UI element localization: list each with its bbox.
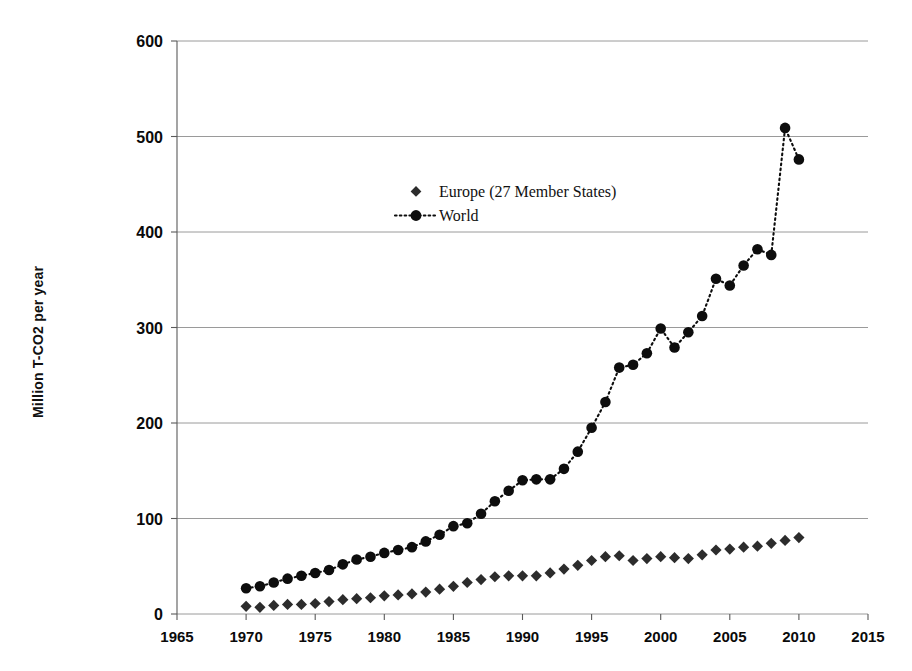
circle-marker-icon <box>411 210 422 221</box>
world-data-point <box>642 348 653 359</box>
world-data-point <box>669 342 680 353</box>
world-data-point <box>766 250 777 261</box>
world-data-point <box>420 536 431 547</box>
world-data-point <box>794 154 805 165</box>
y-axis-title-text: Million T-CO2 per year <box>30 265 46 418</box>
world-data-point <box>490 496 501 507</box>
world-data-point <box>351 554 362 565</box>
x-tick-label-2015: 2015 <box>851 628 884 645</box>
world-data-point <box>503 486 514 497</box>
world-data-point <box>310 568 321 579</box>
world-data-point <box>255 581 266 592</box>
world-data-point <box>711 274 722 285</box>
y-tick-label-300: 300 <box>136 320 163 337</box>
y-tick-label-100: 100 <box>136 511 163 528</box>
world-data-point <box>324 565 335 576</box>
world-data-point <box>365 551 376 562</box>
y-axis-title: Million T-CO2 per year <box>30 265 46 418</box>
x-tick-label-1965: 1965 <box>160 628 193 645</box>
y-tick-label-200: 200 <box>136 415 163 432</box>
y-tick-label-600: 600 <box>136 33 163 50</box>
world-data-point <box>282 573 293 584</box>
world-data-point <box>296 571 307 582</box>
world-data-point <box>683 327 694 338</box>
world-data-point <box>628 359 639 370</box>
world-data-point <box>476 508 487 519</box>
legend-label-europe: Europe (27 Member States) <box>439 183 616 201</box>
world-data-point <box>614 362 625 373</box>
world-data-point <box>655 323 666 334</box>
y-tick-label-500: 500 <box>136 129 163 146</box>
legend-label-world: World <box>439 207 479 224</box>
x-tick-label-2010: 2010 <box>782 628 815 645</box>
world-data-point <box>725 280 736 291</box>
world-data-point <box>600 397 611 408</box>
x-tick-label-1995: 1995 <box>575 628 608 645</box>
world-data-point <box>572 446 583 457</box>
world-data-point <box>586 422 597 433</box>
x-tick-label-2005: 2005 <box>713 628 746 645</box>
world-data-point <box>531 474 542 485</box>
x-tick-label-1980: 1980 <box>368 628 401 645</box>
y-tick-label-0: 0 <box>154 606 163 623</box>
world-data-point <box>268 577 279 588</box>
x-tick-label-1990: 1990 <box>506 628 539 645</box>
world-data-point <box>379 548 390 559</box>
world-data-point <box>517 475 528 486</box>
world-data-point <box>241 583 252 594</box>
y-tick-label-400: 400 <box>136 224 163 241</box>
x-tick-label-2000: 2000 <box>644 628 677 645</box>
world-data-point <box>780 123 791 134</box>
x-tick-label-1985: 1985 <box>437 628 470 645</box>
chart-container: 0100200300400500600 19651970197519801985… <box>0 0 912 671</box>
co2-emissions-line-chart: 0100200300400500600 19651970197519801985… <box>0 0 912 671</box>
world-data-point <box>338 559 349 570</box>
world-data-point <box>462 518 473 529</box>
world-data-point <box>448 521 459 532</box>
world-data-point <box>393 545 404 556</box>
x-tick-label-1975: 1975 <box>299 628 332 645</box>
world-data-point <box>434 529 445 540</box>
world-data-point <box>559 464 570 475</box>
x-tick-label-1970: 1970 <box>229 628 262 645</box>
world-data-point <box>697 311 708 322</box>
world-data-point <box>752 244 763 255</box>
world-data-point <box>407 542 418 553</box>
world-data-point <box>545 474 556 485</box>
legend-item-europe: Europe (27 Member States) <box>411 183 617 201</box>
world-data-point <box>738 260 749 271</box>
